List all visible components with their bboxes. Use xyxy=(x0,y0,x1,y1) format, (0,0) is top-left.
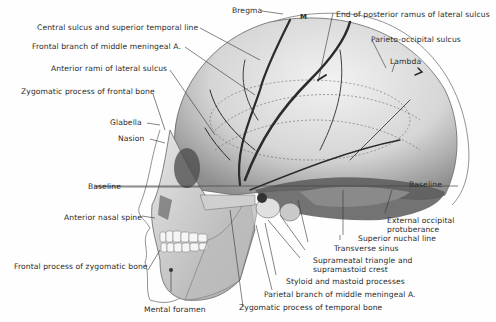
label-bregma: Bregma xyxy=(232,6,262,15)
label-m-marker: M xyxy=(300,13,307,22)
teeth xyxy=(160,231,208,252)
label-frontal-process-zygomatic: Frontal process of zygomatic bone xyxy=(14,262,148,271)
label-baseline-right: Baseline xyxy=(409,180,442,189)
label-transverse-sinus: Transverse sinus xyxy=(334,244,399,253)
label-zygomatic-process-frontal: Zygomatic process of frontal bone xyxy=(21,87,155,96)
label-anterior-nasal-spine: Anterior nasal spine xyxy=(64,213,142,222)
label-frontal-branch: Frontal branch of middle meningeal A. xyxy=(32,42,181,51)
label-anterior-rami: Anterior rami of lateral sulcus xyxy=(51,64,167,73)
orbit xyxy=(174,148,200,188)
label-central-sulcus: Central sulcus and superior temporal lin… xyxy=(37,23,198,32)
label-parietal-branch: Parietal branch of middle meningeal A. xyxy=(264,290,416,299)
label-end-posterior-ramus: End of posterior ramus of lateral sulcus xyxy=(336,10,490,19)
label-styloid-mastoid: Styloid and mastoid processes xyxy=(286,277,405,286)
label-zygomatic-process-temporal: Zygomatic process of temporal bone xyxy=(239,303,382,312)
label-superior-nuchal: Superior nuchal line xyxy=(358,234,436,243)
skull-diagram: Bregma M End of posterior ramus of later… xyxy=(0,0,496,322)
label-mental-foramen: Mental foramen xyxy=(144,305,206,314)
label-parieto-occipital: Parieto-occipital sulcus xyxy=(371,35,461,44)
label-external-occipital-2: protuberance xyxy=(387,225,439,234)
label-suprameatal-1: Suprameatal triangle and xyxy=(313,256,412,265)
cranium xyxy=(175,18,457,199)
label-external-occipital-1: External occipital xyxy=(387,216,455,225)
label-suprameatal-2: supramastoid crest xyxy=(313,265,388,274)
label-lambda: Lambda xyxy=(390,57,421,66)
label-baseline-left: Baseline xyxy=(88,182,121,191)
label-nasion: Nasion xyxy=(118,134,144,143)
label-glabella: Glabella xyxy=(110,118,142,127)
mental-foramen-dot xyxy=(169,268,173,272)
